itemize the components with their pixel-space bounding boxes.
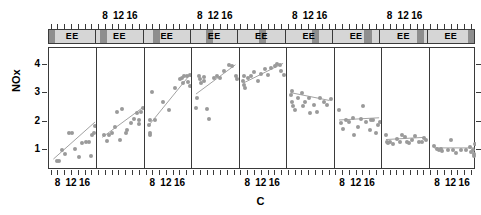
x-tick-minor	[173, 170, 174, 175]
x-tick	[295, 24, 296, 29]
x-tick-minor	[254, 170, 255, 175]
x-tick-minor	[349, 24, 350, 29]
data-point	[161, 100, 165, 104]
data-point	[150, 90, 154, 94]
x-tick	[390, 24, 391, 29]
x-tick	[261, 170, 262, 175]
x-tick	[200, 170, 201, 175]
x-tick-minor	[383, 170, 384, 175]
x-tick	[166, 170, 167, 175]
x-tick-minor	[98, 170, 99, 175]
plot-panel-1	[49, 48, 96, 168]
x-tick-label-bottom: 16	[170, 177, 188, 188]
x-tick-minor	[240, 24, 241, 29]
x-tick	[132, 24, 133, 29]
plot-panel-3	[144, 48, 191, 168]
data-point	[282, 73, 286, 77]
x-tick	[152, 170, 153, 175]
x-tick-minor	[91, 170, 92, 175]
strip-panel-5: EE	[237, 30, 284, 43]
x-tick	[274, 24, 275, 29]
data-point	[384, 133, 388, 137]
x-tick	[71, 24, 72, 29]
right-tick-rule	[476, 47, 481, 169]
conditioning-strip-row: EEEEEEEEEEEEEEEEEE	[48, 29, 475, 44]
x-tick	[403, 170, 404, 175]
x-tick	[356, 24, 357, 29]
x-tick-label-top: 16	[313, 10, 331, 21]
x-tick	[437, 170, 438, 175]
x-tick-minor	[376, 24, 377, 29]
fit-line	[382, 48, 428, 168]
strip-shade	[468, 30, 474, 43]
data-point	[347, 120, 351, 124]
x-tick-label-bottom: 16	[455, 177, 473, 188]
strip-label: EE	[350, 32, 363, 41]
y-tick	[476, 149, 481, 150]
strip-label: EE	[160, 32, 173, 41]
x-tick-minor	[457, 170, 458, 175]
x-tick-minor	[410, 24, 411, 29]
plot-panel-2	[96, 48, 143, 168]
x-tick	[369, 24, 370, 29]
x-tick-minor	[139, 170, 140, 175]
strip-shade	[49, 30, 55, 43]
x-tick-minor	[329, 24, 330, 29]
x-tick	[118, 170, 119, 175]
x-tick-minor	[51, 170, 52, 175]
x-tick-minor	[301, 24, 302, 29]
x-tick	[105, 24, 106, 29]
x-tick-minor	[146, 170, 147, 175]
x-tick-label-bottom: 16	[360, 177, 378, 188]
data-point	[315, 110, 319, 114]
x-tick	[342, 24, 343, 29]
x-tick-label-top: 16	[123, 10, 141, 21]
x-tick-minor	[186, 24, 187, 29]
x-tick-minor	[335, 24, 336, 29]
data-point	[148, 131, 152, 135]
strip-panel-7: EE	[332, 30, 379, 43]
data-point	[205, 107, 209, 111]
data-point	[266, 73, 270, 77]
x-tick-minor	[335, 170, 336, 175]
data-point	[325, 103, 329, 107]
data-point	[364, 120, 368, 124]
x-tick	[417, 170, 418, 175]
x-tick-minor	[146, 24, 147, 29]
x-tick-minor	[186, 170, 187, 175]
x-tick	[451, 24, 452, 29]
strip-label: EE	[208, 32, 221, 41]
x-tick	[437, 24, 438, 29]
data-point	[398, 140, 402, 144]
x-tick	[105, 170, 106, 175]
y-tick	[476, 64, 481, 65]
x-tick-minor	[301, 170, 302, 175]
plot-panel-9	[429, 48, 476, 168]
x-tick	[417, 24, 418, 29]
left-tick-rule	[42, 47, 47, 169]
y-tick-label: 1	[29, 143, 40, 154]
x-tick	[247, 24, 248, 29]
x-tick	[57, 170, 58, 175]
data-point	[471, 148, 475, 152]
x-tick-minor	[457, 24, 458, 29]
x-tick-label-top: 16	[218, 10, 236, 21]
x-tick	[213, 24, 214, 29]
plot-panel-6	[286, 48, 333, 168]
y-tick-label: 4	[29, 58, 40, 69]
x-tick	[57, 24, 58, 29]
x-tick	[356, 170, 357, 175]
x-tick	[322, 24, 323, 29]
data-point	[195, 96, 199, 100]
x-tick-minor	[362, 24, 363, 29]
x-tick	[261, 24, 262, 29]
top-tick-rule	[48, 24, 475, 29]
x-tick-minor	[430, 24, 431, 29]
data-point	[129, 121, 133, 125]
data-point	[361, 104, 365, 108]
x-tick-minor	[281, 24, 282, 29]
strip-label: EE	[255, 32, 268, 41]
x-tick-minor	[78, 24, 79, 29]
x-tick	[132, 170, 133, 175]
